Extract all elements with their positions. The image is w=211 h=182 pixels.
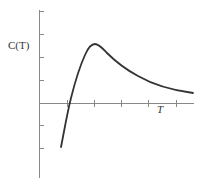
chart-canvas bbox=[0, 0, 211, 182]
y-ticks bbox=[40, 12, 45, 149]
x-axis-label: T bbox=[157, 103, 163, 115]
y-axis-label: C(T) bbox=[8, 39, 29, 51]
curve-c-of-t bbox=[61, 44, 193, 147]
